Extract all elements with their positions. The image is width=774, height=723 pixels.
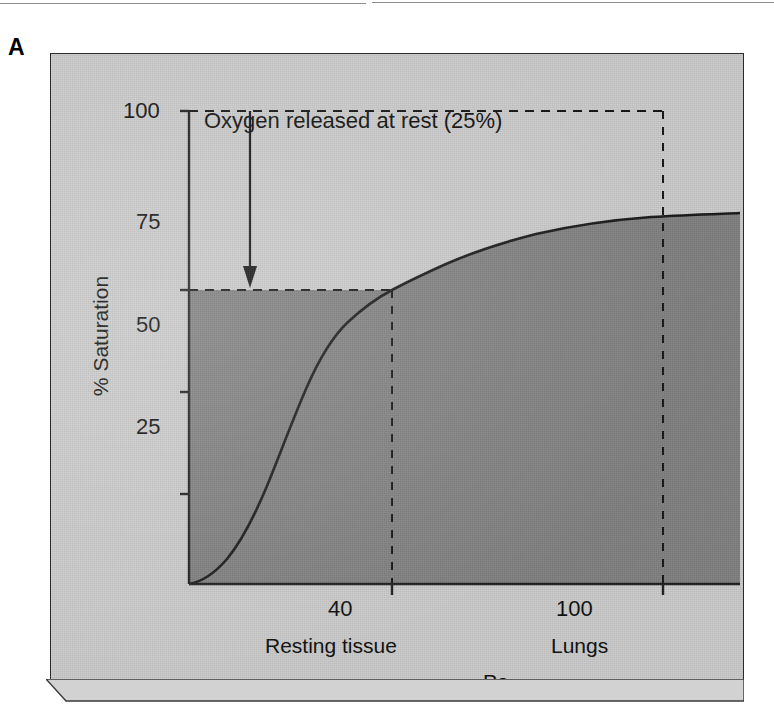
panel-letter: A bbox=[8, 34, 42, 61]
oxyhemoglobin-dissociation-plot bbox=[51, 54, 740, 678]
page-rule-right bbox=[372, 2, 774, 3]
bound-oxygen-shading bbox=[189, 81, 740, 584]
chart-panel: Oxygen released at rest (25%) 100 75 50 … bbox=[50, 53, 744, 682]
y-axis-title: % Saturation bbox=[89, 246, 113, 426]
x-sublabel-resting-tissue: Resting tissue bbox=[265, 634, 397, 658]
y-tick-label-75: 75 bbox=[136, 209, 160, 235]
y-axis-ticks bbox=[180, 111, 189, 494]
x-sublabel-lungs: Lungs bbox=[551, 634, 608, 658]
y-tick-label-25: 25 bbox=[136, 414, 160, 440]
x-tick-label-40: 40 bbox=[328, 596, 352, 622]
y-tick-label-100: 100 bbox=[123, 98, 160, 124]
x-axis-ticks bbox=[392, 584, 663, 595]
oxygen-released-arrow bbox=[243, 111, 257, 288]
x-tick-label-100: 100 bbox=[556, 596, 593, 622]
y-tick-label-50: 50 bbox=[136, 312, 160, 338]
chart-title: Oxygen released at rest (25%) bbox=[204, 108, 502, 134]
figure-base-slab bbox=[46, 679, 744, 703]
page-rule-left bbox=[0, 3, 366, 4]
